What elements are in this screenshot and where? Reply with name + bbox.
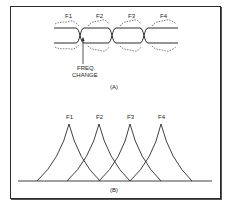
- panel-b-peaks: [37, 124, 192, 181]
- panel-a-dashed-envelopes: [55, 20, 176, 51]
- caption-a: (A): [110, 84, 118, 90]
- caption-b: (B): [110, 187, 118, 193]
- label-a-f4: F4: [160, 13, 168, 19]
- label-a-f3: F3: [128, 13, 136, 19]
- panel-a-signal: [54, 28, 178, 43]
- freq-change-label-1: FREQ.: [77, 65, 96, 71]
- freq-change-label-2: CHANGE: [72, 72, 98, 78]
- label-b-f2: F2: [96, 114, 104, 120]
- label-b-f4: F4: [158, 114, 166, 120]
- label-b-f3: F3: [127, 114, 135, 120]
- diagram-canvas: F1 F2 F3 F4 FREQ. CHANGE (A) F1 F2 F3 F4…: [0, 0, 230, 208]
- label-a-f1: F1: [65, 13, 73, 19]
- label-a-f2: F2: [96, 13, 104, 19]
- label-b-f1: F1: [66, 114, 74, 120]
